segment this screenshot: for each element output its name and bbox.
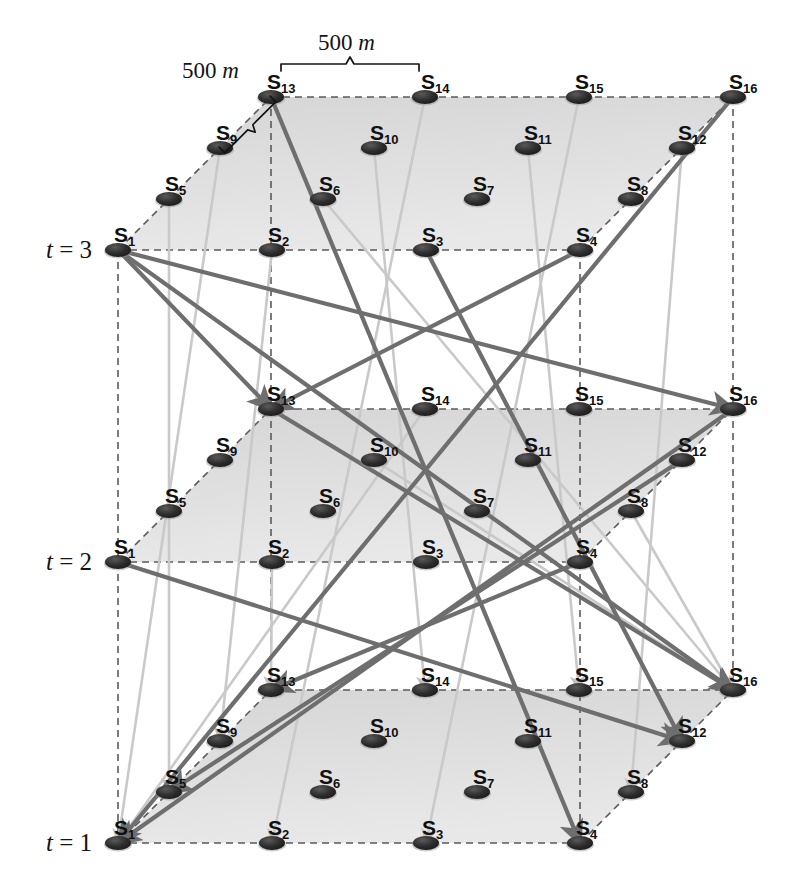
sensor-label-S10-t3: S10 [370, 122, 398, 143]
dimension-brace-horizontal [281, 57, 419, 71]
sensor-label-S1-t2: S1 [114, 536, 135, 557]
sensor-label-S13-t2: S13 [267, 383, 295, 404]
sensor-label-S13-t1: S13 [267, 664, 295, 685]
sensor-label-S6-t2: S6 [319, 485, 340, 506]
sensor-label-S1-t1: S1 [114, 817, 135, 838]
sensor-label-S4-t1: S4 [576, 817, 597, 838]
sensor-label-S9-t1: S9 [216, 715, 237, 736]
sensor-label-S10-t1: S10 [370, 715, 398, 736]
t-label-1: t = 1 [46, 829, 92, 857]
sensor-label-S3-t3: S3 [422, 224, 443, 245]
sensor-label-S5-t2: S5 [165, 485, 186, 506]
sensor-label-S5-t1: S5 [165, 766, 186, 787]
sensor-label-S12-t1: S12 [678, 715, 706, 736]
sensor-label-S1-t3: S1 [114, 224, 135, 245]
t-label-3: t = 3 [46, 236, 92, 264]
sensor-label-S6-t1: S6 [319, 766, 340, 787]
figure-container: S1S2S3S4S5S6S7S8S9S10S11S12S13S14S15S16S… [0, 0, 791, 884]
sensor-label-S7-t2: S7 [473, 485, 494, 506]
sensor-label-S8-t2: S8 [627, 485, 648, 506]
sensor-label-S6-t3: S6 [319, 173, 340, 194]
sensor-label-S8-t3: S8 [627, 173, 648, 194]
sensor-label-S13-t3: S13 [267, 71, 295, 92]
sensor-label-S14-t2: S14 [421, 383, 449, 404]
sensor-label-S2-t2: S2 [268, 536, 289, 557]
sensor-label-S11-t1: S11 [524, 715, 552, 736]
sensor-label-S14-t3: S14 [421, 71, 449, 92]
sensor-label-S12-t3: S12 [678, 122, 706, 143]
sensor-label-S16-t1: S16 [729, 664, 757, 685]
sensor-label-S3-t1: S3 [422, 817, 443, 838]
sensor-label-S15-t1: S15 [575, 664, 603, 685]
sensor-label-S7-t1: S7 [473, 766, 494, 787]
dimension-horizontal: 500 m [318, 30, 375, 56]
sensor-label-S11-t3: S11 [524, 122, 552, 143]
sensor-label-S2-t3: S2 [268, 224, 289, 245]
sensor-label-S15-t3: S15 [575, 71, 603, 92]
sensor-label-S16-t3: S16 [729, 71, 757, 92]
sensor-label-S8-t1: S8 [627, 766, 648, 787]
sensor-label-S11-t2: S11 [524, 434, 552, 455]
sensor-label-S12-t2: S12 [678, 434, 706, 455]
sensor-label-S15-t2: S15 [575, 383, 603, 404]
dimension-diagonal: 500 m [182, 58, 239, 84]
sensor-label-S14-t1: S14 [421, 664, 449, 685]
t-label-2: t = 2 [46, 548, 92, 576]
sensor-label-S10-t2: S10 [370, 434, 398, 455]
sensor-label-S4-t2: S4 [576, 536, 597, 557]
sensor-label-S16-t2: S16 [729, 383, 757, 404]
sensor-label-S3-t2: S3 [422, 536, 443, 557]
sensor-label-S5-t3: S5 [165, 173, 186, 194]
traj-1 [118, 250, 271, 409]
sensor-label-S2-t1: S2 [268, 817, 289, 838]
sensor-label-S9-t2: S9 [216, 434, 237, 455]
sensor-label-S4-t3: S4 [576, 224, 597, 245]
sensor-label-S7-t3: S7 [473, 173, 494, 194]
sensor-label-S9-t3: S9 [216, 122, 237, 143]
